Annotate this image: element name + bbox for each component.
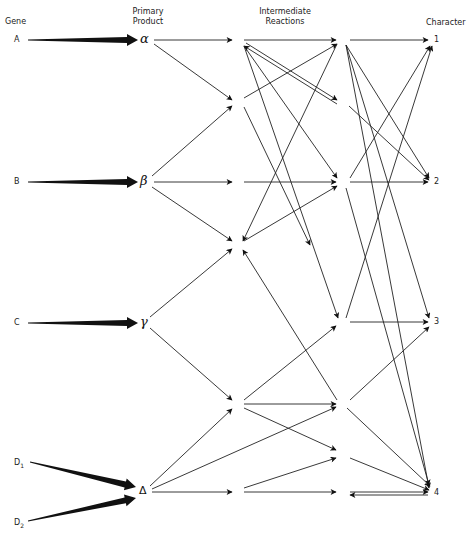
reaction-arrow — [347, 408, 430, 486]
reaction-arrows — [150, 40, 432, 495]
reaction-arrow — [244, 107, 310, 245]
gene-label-a: A — [14, 35, 19, 44]
gene-character-network-diagram — [0, 0, 471, 537]
header-primary-line1: Primary — [128, 7, 168, 17]
header-intermediate-line1: Intermediate — [250, 7, 320, 17]
header-intermediate-line2: Reactions — [250, 17, 320, 27]
reaction-arrow — [244, 46, 337, 104]
reaction-arrow — [152, 106, 232, 176]
character-1: 1 — [434, 35, 439, 44]
gene-label-d1-sub: 1 — [20, 462, 24, 469]
gene-label-d2: D2 — [14, 518, 24, 529]
reaction-arrow — [244, 44, 337, 98]
gene-arrow — [28, 494, 136, 521]
gene-arrow — [28, 317, 138, 329]
header-character: Character — [426, 18, 466, 28]
gene-arrow — [30, 462, 136, 491]
reaction-arrow — [150, 249, 232, 317]
reaction-arrow — [244, 408, 336, 450]
product-gamma: γ — [140, 314, 148, 329]
character-2: 2 — [434, 177, 439, 186]
reaction-arrow — [350, 46, 430, 178]
product-beta: β — [140, 173, 148, 188]
reaction-arrow — [150, 328, 232, 400]
header-intermediate-reactions: Intermediate Reactions — [250, 7, 320, 27]
gene-label-d1: D1 — [14, 458, 24, 469]
gene-label-c: C — [14, 318, 20, 327]
reaction-arrow — [350, 327, 429, 400]
reaction-arrow — [349, 106, 429, 180]
gene-arrow — [28, 34, 138, 46]
reaction-arrow — [346, 45, 429, 318]
gene-label-d2-sub: 2 — [20, 522, 24, 529]
gene-label-b: B — [14, 177, 20, 186]
reaction-arrow — [244, 186, 337, 241]
product-alpha: α — [140, 31, 149, 46]
character-3: 3 — [434, 317, 439, 326]
reaction-arrow — [244, 326, 336, 400]
reaction-arrow — [150, 409, 232, 486]
reaction-arrow — [152, 407, 336, 489]
reaction-arrow — [243, 44, 337, 241]
header-primary-line2: Product — [128, 17, 168, 27]
reaction-arrow — [244, 46, 337, 178]
header-gene: Gene — [5, 17, 26, 27]
character-4: 4 — [434, 488, 439, 497]
gene-to-product-arrows — [28, 34, 138, 521]
gene-arrow — [28, 176, 138, 188]
header-primary-product: Primary Product — [128, 7, 168, 27]
reaction-arrow — [346, 188, 429, 485]
reaction-arrow — [152, 187, 232, 241]
reaction-arrow — [154, 44, 232, 100]
product-delta: Δ — [139, 484, 147, 497]
reaction-arrow — [244, 458, 336, 488]
reaction-arrow — [243, 250, 337, 400]
